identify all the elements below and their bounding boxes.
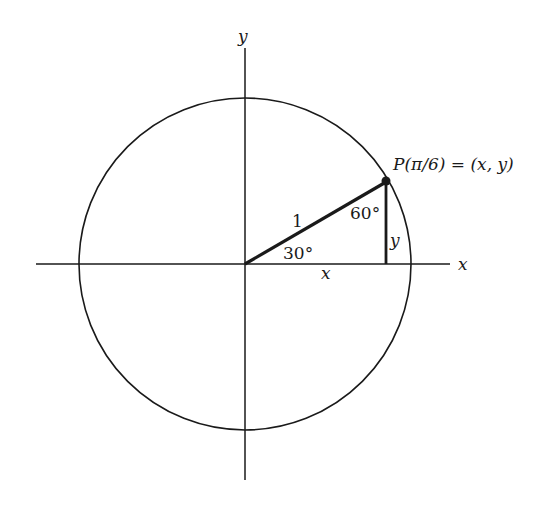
point-label: P(π/6) = (x, y) (392, 154, 514, 174)
angle-60-label: 60° (350, 203, 380, 223)
unit-circle-diagram: y x P(π/6) = (x, y) 1 30° 60° y x (0, 0, 559, 505)
y-axis-label: y (237, 26, 248, 46)
x-axis-label: x (458, 254, 468, 274)
radius-segment (245, 182, 386, 264)
radius-label: 1 (292, 211, 303, 231)
point-p (382, 177, 391, 186)
angle-30-label: 30° (283, 243, 313, 263)
vertical-leg-label: y (389, 230, 400, 250)
horizontal-leg-label: x (321, 263, 331, 283)
